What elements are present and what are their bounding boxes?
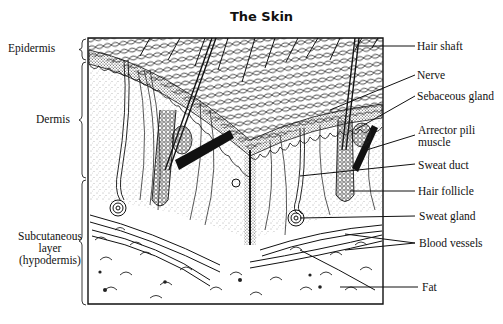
label-fat: Fat — [422, 281, 437, 293]
skin-diagram: The Skin Epidermis Dermis Subcutaneous l… — [0, 0, 503, 324]
label-dermis: Dermis — [36, 113, 70, 125]
label-hair-shaft: Hair shaft — [417, 40, 463, 52]
label-sweat-gland: Sweat gland — [419, 210, 476, 222]
label-line: Subcutaneous — [18, 230, 82, 242]
label-sebaceous-gland: Sebaceous gland — [417, 90, 494, 102]
label-epidermis: Epidermis — [8, 42, 55, 54]
diagram-title: The Skin — [0, 9, 503, 24]
label-nerve: Nerve — [417, 69, 445, 81]
label-blood-vessels: Blood vessels — [419, 237, 483, 249]
label-line: (hypodermis) — [18, 254, 82, 266]
label-line: Arrector pili — [418, 124, 475, 136]
label-line: layer — [18, 242, 82, 254]
label-subcutaneous-layer: Subcutaneous layer (hypodermis) — [18, 230, 82, 266]
label-hair-follicle: Hair follicle — [418, 185, 474, 197]
label-arrector-pili-muscle: Arrector pili muscle — [418, 124, 475, 148]
label-line: muscle — [418, 136, 475, 148]
label-sweat-duct: Sweat duct — [418, 159, 469, 171]
